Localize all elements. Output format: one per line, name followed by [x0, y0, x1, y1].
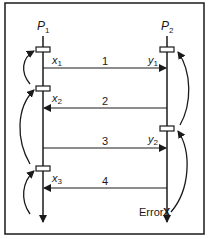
process-label-p1: P1: [37, 19, 50, 35]
checkpoint-label-y1: y1: [147, 54, 159, 68]
rollback-arrow-y2-to-y1: [178, 52, 189, 125]
checkpoint-box-x2: [36, 86, 50, 91]
process-label-p2: P2: [161, 19, 174, 35]
rollback-arrow-error-to-y2: [171, 131, 187, 212]
rollback-arrow-x2-to-x1: [24, 51, 34, 84]
message-label-1: 1: [102, 55, 108, 67]
checkpoint-box-y1: [160, 47, 174, 52]
checkpoint-label-x3: x3: [51, 172, 63, 186]
message-label-2: 2: [102, 95, 108, 107]
message-label-3: 3: [102, 135, 108, 147]
checkpoint-box-x3: [36, 166, 50, 171]
checkpoint-label-x2: x2: [51, 92, 63, 106]
rollback-arrow-x3-to-x2: [20, 90, 34, 164]
checkpoint-label-x1: x1: [51, 54, 63, 68]
message-label-4: 4: [102, 175, 108, 187]
error-label: Error: [139, 206, 164, 218]
checkpoint-box-y2: [160, 126, 174, 131]
checkpoint-box-x1: [36, 47, 50, 52]
error-x-icon: X: [163, 206, 171, 218]
rollback-arrow-end-to-x3: [24, 171, 34, 214]
checkpoint-diagram: P1 P2 x1 x2 x3 y1 y2 1 2 3 4 Error X: [0, 0, 211, 239]
frame: [5, 3, 204, 234]
checkpoint-label-y2: y2: [147, 133, 159, 147]
